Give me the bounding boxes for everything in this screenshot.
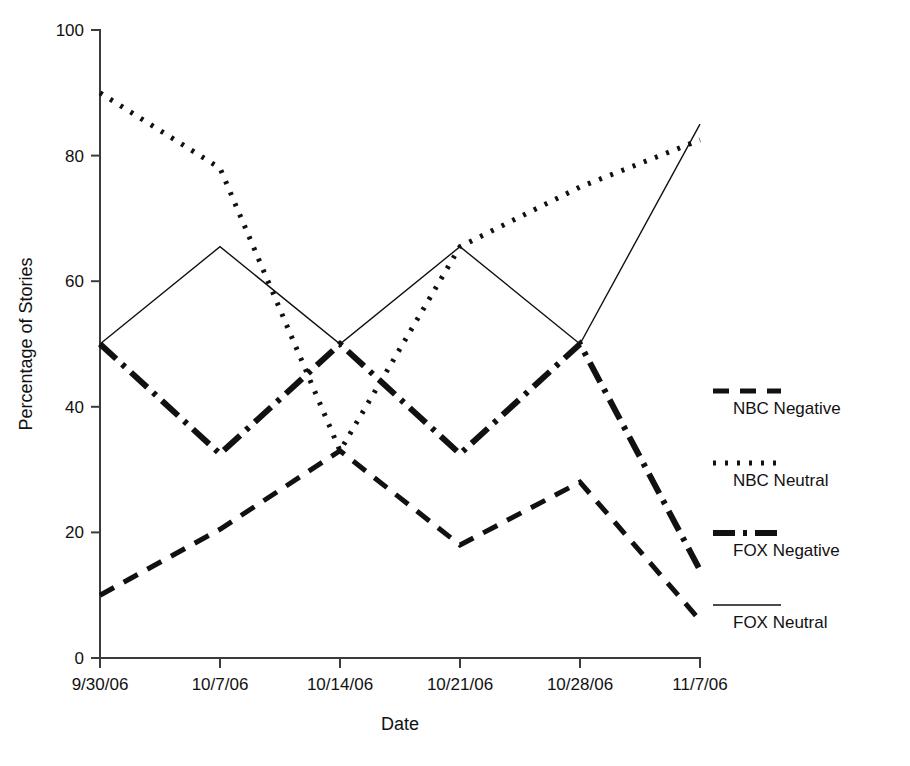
chart-legend: NBC NegativeNBC NeutralFOX NegativeFOX N… [713,391,841,632]
line-chart: 020406080100 9/30/0610/7/0610/14/0610/21… [0,0,910,766]
axes-layer [100,30,700,658]
y-tick-label: 0 [75,649,84,668]
x-tick-label: 10/21/06 [427,675,493,694]
legend-label-fox-negative: FOX Negative [733,541,840,560]
x-tick-label: 9/30/06 [72,675,129,694]
chart-container: 020406080100 9/30/0610/7/0610/14/0610/21… [0,0,910,766]
y-tick-label: 100 [56,21,84,40]
series-line-fox-negative [100,344,700,570]
x-axis-ticks: 9/30/0610/7/0610/14/0610/21/0610/28/0611… [72,658,728,694]
series-layer [100,93,700,621]
legend-label-fox-neutral: FOX Neutral [733,613,827,632]
series-line-nbc-negative [100,451,700,621]
legend-label-nbc-negative: NBC Negative [733,399,841,418]
y-axis-ticks: 020406080100 [56,21,100,668]
x-tick-label: 10/14/06 [307,675,373,694]
series-line-fox-neutral [100,124,700,344]
y-tick-label: 60 [65,272,84,291]
y-axis-title: Percentage of Stories [16,257,36,430]
x-tick-label: 10/28/06 [547,675,613,694]
x-axis-title: Date [381,714,419,734]
y-tick-label: 20 [65,523,84,542]
y-tick-label: 40 [65,398,84,417]
x-tick-label: 11/7/06 [672,675,727,694]
legend-label-nbc-neutral: NBC Neutral [733,471,828,490]
x-tick-label: 10/7/06 [192,675,249,694]
y-tick-label: 80 [65,147,84,166]
